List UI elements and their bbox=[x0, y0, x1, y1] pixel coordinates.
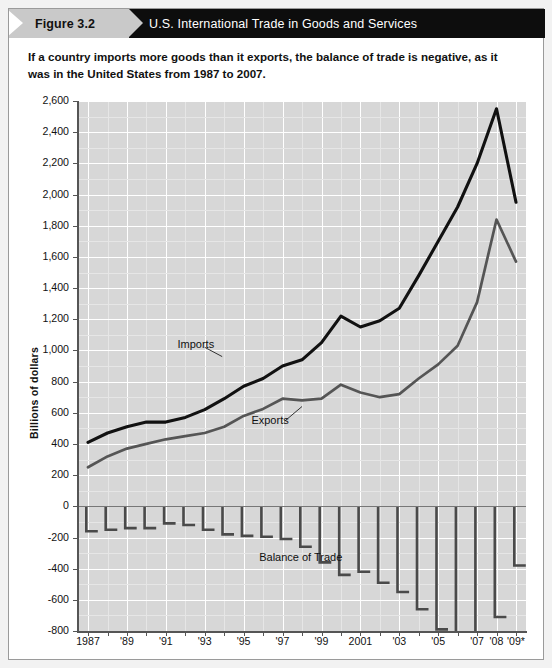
y-axis-tick-mark bbox=[73, 569, 78, 570]
y-axis-tick-mark bbox=[73, 195, 78, 196]
balance-of-trade-bar bbox=[437, 506, 449, 629]
y-axis-tick-label: 400 bbox=[9, 437, 69, 449]
balance-of-trade-bar bbox=[514, 506, 526, 565]
y-axis-tick-mark bbox=[73, 413, 78, 414]
page-background: Figure 3.2 U.S. International Trade in G… bbox=[0, 0, 552, 668]
balance-of-trade-bar bbox=[261, 506, 273, 536]
x-axis-tick-mark bbox=[185, 631, 186, 636]
x-axis-tick-label: '07 bbox=[470, 635, 484, 647]
y-axis-tick-mark bbox=[73, 538, 78, 539]
balance-of-trade-bar bbox=[456, 506, 468, 631]
balance-of-trade-bar bbox=[223, 506, 235, 534]
x-axis-tick-label: '91 bbox=[159, 635, 173, 647]
series-line-exports bbox=[88, 220, 516, 468]
y-axis-tick-label: 2,400 bbox=[9, 125, 69, 137]
y-axis-tick-mark bbox=[73, 226, 78, 227]
figure-card: Figure 3.2 U.S. International Trade in G… bbox=[8, 8, 544, 660]
y-axis-tick-label: 1,400 bbox=[9, 281, 69, 293]
y-axis-tick-mark bbox=[73, 631, 78, 632]
y-axis-tick-label: 2,000 bbox=[9, 188, 69, 200]
y-axis-tick-mark bbox=[73, 288, 78, 289]
y-axis-tick-label: 800 bbox=[9, 375, 69, 387]
x-axis-tick-label: '95 bbox=[237, 635, 251, 647]
series-label-imports: Imports bbox=[178, 338, 215, 350]
zero-baseline bbox=[78, 506, 526, 507]
balance-of-trade-bar bbox=[281, 506, 293, 539]
x-axis-tick-mark bbox=[108, 631, 109, 636]
balance-of-trade-bar bbox=[145, 506, 157, 528]
figure-header-bar: Figure 3.2 U.S. International Trade in G… bbox=[9, 9, 545, 38]
y-axis-tick-label: -800 bbox=[9, 624, 69, 636]
balance-of-trade-bar bbox=[417, 506, 429, 609]
y-axis-tick-mark bbox=[73, 163, 78, 164]
x-axis-tick-label: '89 bbox=[120, 635, 134, 647]
y-axis-tick-label: 200 bbox=[9, 468, 69, 480]
x-axis-tick-mark bbox=[341, 631, 342, 636]
series-line-imports bbox=[88, 109, 516, 443]
y-axis-tick-mark bbox=[73, 444, 78, 445]
y-axis-tick-mark bbox=[73, 600, 78, 601]
figure-caption: If a country imports more goods than it … bbox=[28, 48, 518, 82]
y-axis-tick-mark bbox=[73, 506, 78, 507]
y-axis-tick-mark bbox=[73, 319, 78, 320]
figure-title: U.S. International Trade in Goods and Se… bbox=[149, 9, 417, 38]
y-axis-tick-label: -200 bbox=[9, 531, 69, 543]
y-axis-tick-label: 1,800 bbox=[9, 219, 69, 231]
x-axis-tick-label: '03 bbox=[392, 635, 406, 647]
balance-of-trade-bar bbox=[359, 506, 371, 572]
balance-of-trade-bar bbox=[300, 506, 312, 547]
x-axis-tick-mark bbox=[146, 631, 147, 636]
balance-of-trade-bar bbox=[475, 506, 487, 631]
balance-of-trade-bar bbox=[378, 506, 390, 582]
y-axis-line bbox=[77, 101, 79, 632]
y-axis-tick-mark bbox=[73, 350, 78, 351]
y-axis-tick-label: 0 bbox=[9, 499, 69, 511]
balance-of-trade-bar bbox=[184, 506, 196, 525]
balance-of-trade-bar bbox=[164, 506, 176, 523]
x-axis-tick-mark bbox=[302, 631, 303, 636]
x-axis-tick-label: '97 bbox=[276, 635, 290, 647]
x-axis-tick-mark bbox=[419, 631, 420, 636]
y-axis-tick-label: 1,000 bbox=[9, 343, 69, 355]
y-axis-tick-mark bbox=[73, 257, 78, 258]
x-axis-tick-mark bbox=[380, 631, 381, 636]
y-axis-tick-label: 2,600 bbox=[9, 94, 69, 106]
balance-of-trade-bar bbox=[398, 506, 410, 592]
balance-of-trade-bar bbox=[86, 506, 98, 531]
figure-number-label: Figure 3.2 bbox=[35, 9, 95, 38]
y-axis-tick-label: -600 bbox=[9, 593, 69, 605]
x-axis-tick-label: 1987 bbox=[76, 635, 100, 647]
y-axis-tick-label: -400 bbox=[9, 562, 69, 574]
x-axis-tick-label: '05 bbox=[431, 635, 445, 647]
series-label-exports: Exports bbox=[251, 414, 288, 426]
balance-of-trade-bar bbox=[242, 506, 254, 536]
balance-of-trade-bar bbox=[495, 506, 507, 617]
balance-of-trade-bar bbox=[106, 506, 118, 529]
balance-of-trade-bar bbox=[339, 506, 351, 575]
balance-of-trade-bar bbox=[125, 506, 137, 528]
x-axis-tick-label: '08 bbox=[490, 635, 504, 647]
y-axis-tick-mark bbox=[73, 475, 78, 476]
y-axis-tick-mark bbox=[73, 132, 78, 133]
x-axis-tick-label: '09* bbox=[507, 635, 525, 647]
y-axis-tick-mark bbox=[73, 382, 78, 383]
chevron-left-icon bbox=[9, 9, 23, 37]
y-axis-tick-mark bbox=[73, 101, 78, 102]
chart-container: Billions of dollars 2,6002,4002,2002,000… bbox=[9, 87, 545, 647]
y-axis-tick-label: 1,600 bbox=[9, 250, 69, 262]
x-axis-tick-mark bbox=[224, 631, 225, 636]
y-axis-tick-label: 2,200 bbox=[9, 156, 69, 168]
x-axis-tick-label: '93 bbox=[198, 635, 212, 647]
series-label-balance-of-trade: Balance of Trade bbox=[259, 551, 342, 563]
balance-of-trade-bar bbox=[203, 506, 215, 529]
x-axis-tick-label: '99 bbox=[315, 635, 329, 647]
x-axis-tick-mark bbox=[263, 631, 264, 636]
y-axis-tick-label: 600 bbox=[9, 406, 69, 418]
y-axis-tick-label: 1,200 bbox=[9, 312, 69, 324]
x-axis-tick-label: 2001 bbox=[349, 635, 373, 647]
x-axis-tick-mark bbox=[458, 631, 459, 636]
